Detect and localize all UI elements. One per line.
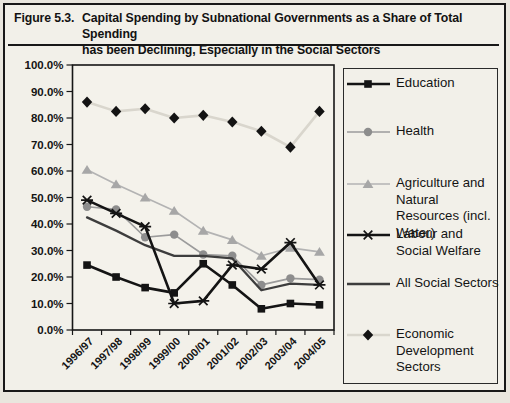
series-marker-education xyxy=(258,305,266,313)
legend-asterisk-icon xyxy=(346,226,392,244)
y-axis-label: 30.0% xyxy=(31,245,64,257)
y-axis-label: 80.0% xyxy=(31,112,64,124)
legend-item-education: Education xyxy=(346,75,500,93)
legend-sample-marker xyxy=(363,329,373,340)
series-marker-health xyxy=(286,274,294,282)
chart-legend: EducationHealthAgriculture and Natural R… xyxy=(343,68,498,384)
y-axis-label: 70.0% xyxy=(31,139,64,151)
y-axis-label: 100.0% xyxy=(24,59,63,71)
legend-line-icon xyxy=(346,275,392,293)
y-axis-label: 10.0% xyxy=(31,298,64,310)
legend-item-labour: Labour and Social Welfare xyxy=(346,226,500,259)
legend-item-all-social: All Social Sectors xyxy=(346,275,500,293)
series-marker-education xyxy=(287,300,295,308)
legend-sample-marker xyxy=(364,128,372,136)
legend-diamond-icon xyxy=(346,326,392,344)
legend-square-icon xyxy=(346,75,392,93)
plot-area xyxy=(73,65,335,330)
series-marker-education xyxy=(316,301,324,309)
series-marker-education xyxy=(83,261,91,269)
series-marker-education xyxy=(141,284,149,292)
legend-label-health: Health xyxy=(396,123,500,140)
y-axis-label: 60.0% xyxy=(31,165,64,177)
legend-label-education: Education xyxy=(396,75,500,92)
legend-item-economic: Economic Development Sectors xyxy=(346,326,500,376)
series-marker-health xyxy=(199,250,207,258)
legend-label-labour: Labour and Social Welfare xyxy=(396,226,500,259)
series-marker-education xyxy=(199,260,207,268)
legend-triangle-icon xyxy=(346,175,392,193)
legend-label-all-social: All Social Sectors xyxy=(396,275,500,292)
y-axis-label: 20.0% xyxy=(31,271,64,283)
legend-circle-icon xyxy=(346,123,392,141)
y-axis-label: 40.0% xyxy=(31,218,64,230)
scanned-figure-page: { "figure": { "label": "Figure 5.3.", "t… xyxy=(0,0,510,403)
series-marker-education xyxy=(229,281,237,289)
y-axis-label: 90.0% xyxy=(31,86,64,98)
x-axis-label: 2004/05 xyxy=(291,335,328,372)
legend-item-health: Health xyxy=(346,123,500,141)
y-axis-label: 0.0% xyxy=(37,324,63,336)
legend-sample-marker xyxy=(362,231,374,240)
legend-sample-marker xyxy=(364,80,372,88)
legend-label-economic: Economic Development Sectors xyxy=(396,326,500,376)
series-marker-education xyxy=(112,273,120,281)
y-axis-label: 50.0% xyxy=(31,192,64,204)
series-marker-health xyxy=(170,230,178,238)
